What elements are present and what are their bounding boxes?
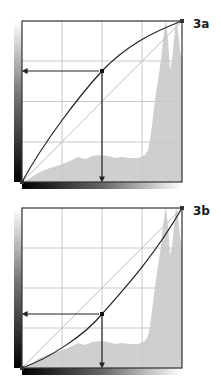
figure-label-3b: 3b	[193, 204, 210, 218]
curve-panel-3b: 3b	[0, 190, 221, 385]
control-point	[100, 69, 104, 73]
output-gradient-bar	[14, 21, 22, 182]
curve-panel-3a: 3a	[0, 0, 221, 195]
curve-chart-3b	[0, 190, 221, 385]
input-gradient-bar	[22, 182, 182, 189]
curve-chart-3a	[0, 0, 221, 195]
figure-label-3a: 3a	[193, 17, 209, 31]
output-gradient-bar	[14, 208, 22, 368]
input-gradient-bar	[22, 368, 182, 375]
control-point	[100, 312, 104, 316]
